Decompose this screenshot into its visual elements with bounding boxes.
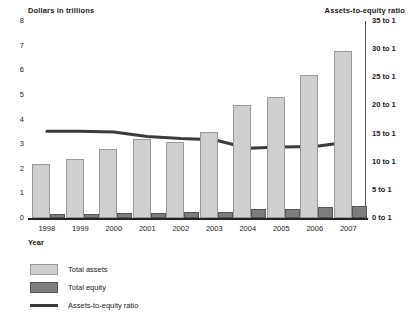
left-axis-tick-3: 3 <box>8 140 24 148</box>
legend-label-0: Total assets <box>68 265 108 274</box>
plot-area <box>30 21 365 218</box>
bar-total-equity-2000 <box>117 213 132 218</box>
right-axis-tick-25: 25 to 1 <box>372 73 408 81</box>
bar-group-2001 <box>133 21 163 218</box>
chart-legend: Total assetsTotal equityAssets-to-equity… <box>30 262 138 313</box>
bar-group-2006 <box>300 21 330 218</box>
bar-total-assets-2007 <box>334 51 352 218</box>
bar-group-1998 <box>32 21 62 218</box>
assets-equity-chart: Dollars in trillions Assets-to-equity ra… <box>0 0 411 313</box>
legend-swatch-light-gray-square <box>30 264 58 275</box>
right-axis-tick-10: 10 to 1 <box>372 158 408 166</box>
x-axis-line <box>28 218 368 220</box>
bar-total-assets-2002 <box>166 142 184 218</box>
bar-group-2004 <box>233 21 263 218</box>
left-axis-tick-8: 8 <box>8 17 24 25</box>
bar-group-2002 <box>166 21 196 218</box>
bar-total-equity-1999 <box>84 214 99 218</box>
legend-item-0: Total assets <box>30 262 138 276</box>
left-axis-tick-4: 4 <box>8 116 24 124</box>
bar-total-equity-2002 <box>184 212 199 218</box>
bar-total-equity-2001 <box>151 213 166 218</box>
bar-total-equity-2005 <box>285 209 300 218</box>
bar-group-2005 <box>267 21 297 218</box>
right-axis-tick-5: 5 to 1 <box>372 186 408 194</box>
x-axis-label: Year <box>28 238 44 247</box>
bar-total-assets-1999 <box>66 159 84 218</box>
right-axis-tick-15: 15 to 1 <box>372 130 408 138</box>
bar-total-equity-1998 <box>50 214 65 218</box>
bar-group-2003 <box>200 21 230 218</box>
left-axis-tick-7: 7 <box>8 42 24 50</box>
bar-total-assets-2004 <box>233 105 251 218</box>
bar-total-equity-2007 <box>352 206 367 218</box>
right-axis-line <box>365 21 366 219</box>
left-axis-tick-5: 5 <box>8 91 24 99</box>
right-axis-tick-30: 30 to 1 <box>372 45 408 53</box>
legend-item-2: Assets-to-equity ratio <box>30 298 138 312</box>
right-axis-tick-0: 0 to 1 <box>372 214 408 222</box>
right-axis-title: Assets-to-equity ratio <box>325 6 405 15</box>
bar-total-assets-2001 <box>133 139 151 218</box>
left-axis-title: Dollars in trillions <box>28 6 94 15</box>
bar-total-assets-2000 <box>99 149 117 218</box>
x-axis-tick-2007: 2007 <box>328 224 368 233</box>
bar-total-equity-2006 <box>318 207 333 218</box>
bar-total-assets-1998 <box>32 164 50 218</box>
left-axis-tick-2: 2 <box>8 165 24 173</box>
legend-item-1: Total equity <box>30 280 138 294</box>
bar-total-assets-2005 <box>267 97 285 218</box>
bar-group-1999 <box>66 21 96 218</box>
left-axis-tick-1: 1 <box>8 189 24 197</box>
legend-swatch-dark-gray-square <box>30 282 58 293</box>
legend-swatch-dark-line <box>30 300 58 311</box>
bar-total-equity-2004 <box>251 209 266 218</box>
right-axis-tick-35: 35 to 1 <box>372 17 408 25</box>
bar-total-assets-2006 <box>300 75 318 218</box>
bar-group-2000 <box>99 21 129 218</box>
legend-label-2: Assets-to-equity ratio <box>68 301 138 310</box>
legend-label-1: Total equity <box>68 283 106 292</box>
left-axis-tick-0: 0 <box>8 214 24 222</box>
left-axis-tick-6: 6 <box>8 66 24 74</box>
right-axis-tick-20: 20 to 1 <box>372 101 408 109</box>
bar-total-assets-2003 <box>200 132 218 218</box>
bar-group-2007 <box>334 21 364 218</box>
bar-total-equity-2003 <box>218 212 233 218</box>
